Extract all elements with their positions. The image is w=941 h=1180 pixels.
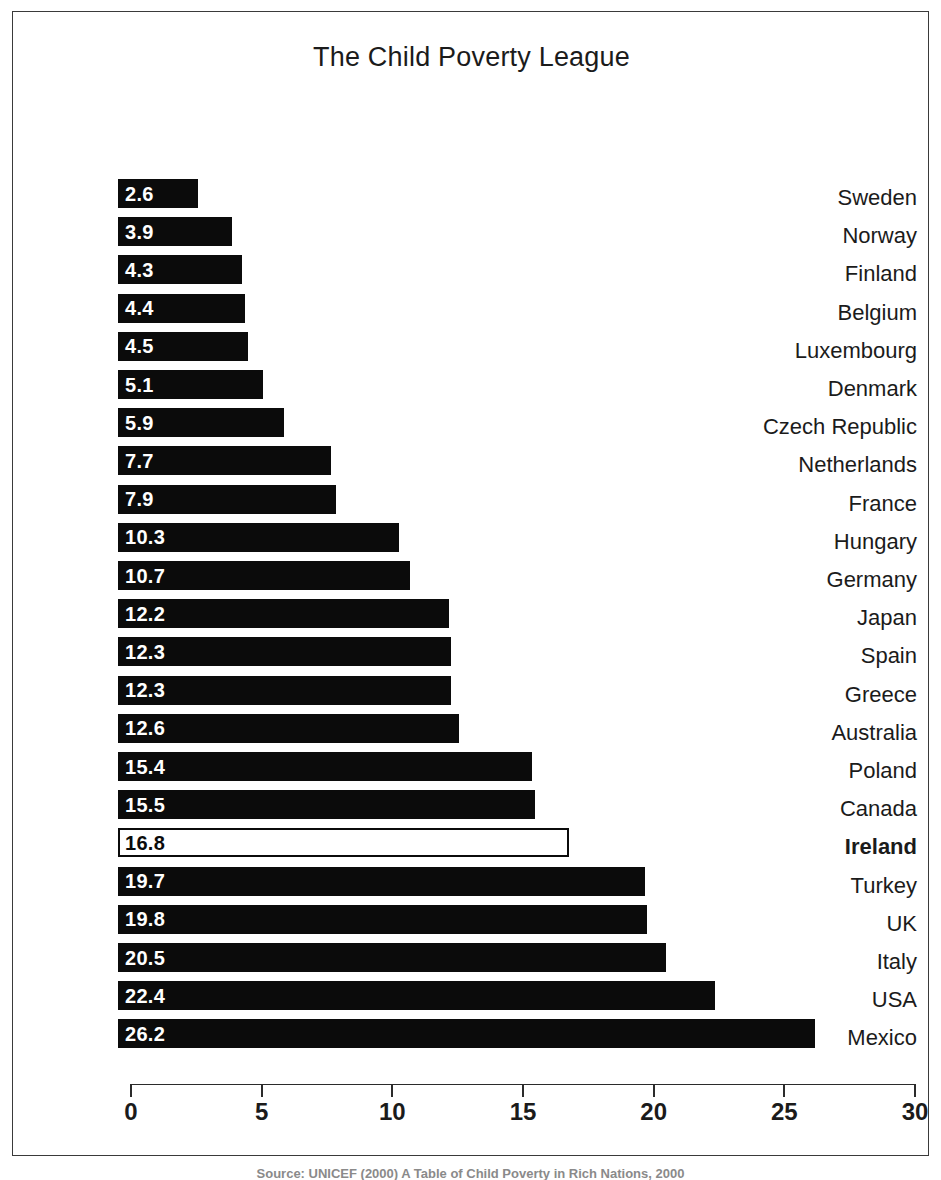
category-label: Australia: [617, 722, 917, 744]
x-axis-tick-mark: [653, 1084, 655, 1097]
bar[interactable]: 15.4: [118, 752, 532, 781]
bar[interactable]: 19.7: [118, 867, 645, 896]
x-axis-tick-label: 10: [362, 1100, 422, 1124]
bar-value-label: 12.2: [118, 604, 165, 624]
bar-value-label: 5.1: [118, 375, 154, 395]
bar-value-label: 19.8: [118, 909, 165, 929]
bar[interactable]: 4.5: [118, 332, 248, 361]
source-caption: Source: UNICEF (2000) A Table of Child P…: [12, 1166, 929, 1180]
category-label: Greece: [617, 684, 917, 706]
x-axis-tick-mark: [391, 1084, 393, 1097]
bar[interactable]: 12.2: [118, 599, 449, 628]
x-axis-tick-mark: [130, 1084, 132, 1097]
bar-value-label: 3.9: [118, 222, 154, 242]
category-label: Italy: [617, 951, 917, 973]
bar[interactable]: 4.4: [118, 294, 245, 323]
bar-value-label: 12.3: [118, 642, 165, 662]
bar[interactable]: 4.3: [118, 255, 242, 284]
bar[interactable]: 10.3: [118, 523, 399, 552]
bar-value-label: 4.5: [118, 336, 154, 356]
category-label: UK: [617, 913, 917, 935]
bar-highlighted[interactable]: 16.8: [118, 828, 569, 857]
bar[interactable]: 10.7: [118, 561, 410, 590]
category-label: Norway: [617, 225, 917, 247]
chart-frame: The Child Poverty League 2.63.94.34.44.5…: [12, 11, 929, 1156]
category-label: Spain: [617, 645, 917, 667]
x-axis-tick-label: 0: [101, 1100, 161, 1124]
category-label: Belgium: [617, 302, 917, 324]
category-label: Czech Republic: [617, 416, 917, 438]
bar-value-label: 26.2: [118, 1024, 165, 1044]
bar-value-label: 4.3: [118, 260, 154, 280]
category-label: USA: [617, 989, 917, 1011]
x-axis: 051015202530: [130, 1084, 914, 1085]
bar[interactable]: 7.7: [118, 446, 331, 475]
x-axis-tick-label: 25: [754, 1100, 814, 1124]
bar[interactable]: 12.3: [118, 676, 451, 705]
bar-value-label: 5.9: [118, 413, 154, 433]
category-label: Japan: [617, 607, 917, 629]
category-label: Sweden: [617, 187, 917, 209]
bar-value-label: 12.6: [118, 718, 165, 738]
bar[interactable]: 2.6: [118, 179, 198, 208]
bar-value-label: 22.4: [118, 986, 165, 1006]
bar-value-label: 12.3: [118, 680, 165, 700]
category-label: Finland: [617, 263, 917, 285]
bar[interactable]: 19.8: [118, 905, 647, 934]
bar-value-label: 7.7: [118, 451, 154, 471]
x-axis-tick-mark: [914, 1084, 916, 1097]
x-axis-tick-mark: [261, 1084, 263, 1097]
bar[interactable]: 5.1: [118, 370, 263, 399]
category-label: Turkey: [617, 875, 917, 897]
bar-value-label: 16.8: [120, 833, 165, 853]
category-label: Canada: [617, 798, 917, 820]
category-label: Poland: [617, 760, 917, 782]
x-axis-tick-label: 20: [624, 1100, 684, 1124]
category-label: Luxembourg: [617, 340, 917, 362]
x-axis-tick-mark: [522, 1084, 524, 1097]
bar[interactable]: 20.5: [118, 943, 666, 972]
category-label: Denmark: [617, 378, 917, 400]
bar[interactable]: 3.9: [118, 217, 232, 246]
bar[interactable]: 12.6: [118, 714, 459, 743]
category-label: Netherlands: [617, 454, 917, 476]
x-axis-tick-mark: [783, 1084, 785, 1097]
page-title: The Child Poverty League: [13, 42, 930, 73]
category-label: Germany: [617, 569, 917, 591]
bar-value-label: 20.5: [118, 948, 165, 968]
category-label-column: SwedenNorwayFinlandBelgiumLuxembourgDenm…: [613, 179, 926, 1079]
bar-value-label: 4.4: [118, 298, 154, 318]
x-axis-tick-label: 5: [232, 1100, 292, 1124]
x-axis-tick-label: 30: [885, 1100, 941, 1124]
bar-value-label: 10.7: [118, 566, 165, 586]
category-label: Hungary: [617, 531, 917, 553]
bar-value-label: 7.9: [118, 489, 154, 509]
bar-value-label: 15.4: [118, 757, 165, 777]
bar-value-label: 10.3: [118, 527, 165, 547]
x-axis-tick-label: 15: [493, 1100, 553, 1124]
bar[interactable]: 12.3: [118, 637, 451, 666]
bar-value-label: 2.6: [118, 184, 154, 204]
bar[interactable]: 15.5: [118, 790, 535, 819]
category-label: France: [617, 493, 917, 515]
bar[interactable]: 7.9: [118, 485, 336, 514]
category-label: Ireland: [617, 836, 917, 858]
bar-value-label: 15.5: [118, 795, 165, 815]
bar-value-label: 19.7: [118, 871, 165, 891]
category-label: Mexico: [617, 1027, 917, 1049]
bar[interactable]: 5.9: [118, 408, 284, 437]
